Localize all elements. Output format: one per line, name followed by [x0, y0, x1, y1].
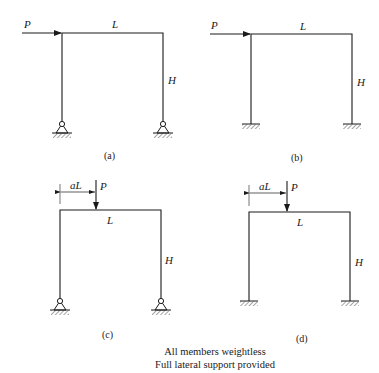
fixed-support-icon [240, 301, 258, 306]
frame-b: P L H (b) [210, 19, 366, 164]
frame-c-position-label: aL [70, 179, 82, 191]
frame-a-caption: (a) [104, 150, 115, 162]
frame-a-height-label: H [167, 74, 177, 86]
frame-c-span-label: L [106, 214, 113, 226]
frame-d-span-label: L [296, 216, 303, 228]
fixed-support-icon [242, 124, 260, 129]
frame-c-caption: (c) [102, 329, 113, 341]
fixed-support-icon [343, 124, 361, 129]
frame-b-height-label: H [356, 76, 366, 88]
notes: All members weightless Full lateral supp… [0, 345, 379, 371]
frame-c: P aL L H (c) [50, 179, 174, 341]
pin-support-icon [151, 298, 171, 315]
frame-d-height-label: H [354, 256, 364, 268]
note-line-1: All members weightless [0, 345, 379, 358]
frame-a-members [62, 33, 163, 121]
frame-a-load-label: P [23, 18, 31, 30]
pin-support-icon [52, 121, 72, 138]
pin-support-icon [153, 121, 173, 138]
frame-d: P aL L H (d) [240, 180, 364, 345]
frame-b-members [251, 34, 352, 124]
frame-d-position-label: aL [259, 180, 271, 192]
pin-support-icon [50, 298, 70, 315]
frame-c-height-label: H [164, 254, 174, 266]
portal-frames-diagram: P L H (a) P L H (b) P aL L H (c) P [0, 0, 379, 373]
frame-a: P L H (a) [22, 18, 177, 162]
frame-a-span-label: L [111, 18, 118, 30]
frame-b-span-label: L [299, 20, 306, 32]
fixed-support-icon [341, 301, 359, 306]
frame-c-load-label: P [99, 180, 107, 192]
frame-b-load-label: P [210, 19, 218, 31]
frame-d-load-label: P [290, 181, 298, 193]
note-line-2: Full lateral support provided [0, 358, 379, 371]
frame-b-caption: (b) [291, 152, 303, 164]
frame-d-caption: (d) [296, 333, 308, 345]
